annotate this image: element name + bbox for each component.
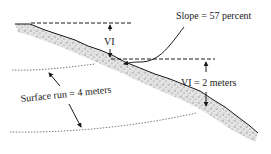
slope-pointer-arrow [124,27,184,64]
vi-upper-label: VI [104,36,115,47]
upper-dotted-line [12,64,95,70]
slope-label: Slope = 57 percent [176,10,252,21]
slope-diagram: VI Slope = 57 percent VI = 2 meters Surf… [0,0,271,154]
lower-dotted-line [10,113,196,132]
vi-lower-label: VI = 2 meters [181,77,236,88]
surface-run-label: Surface run = 4 meters [20,84,112,104]
